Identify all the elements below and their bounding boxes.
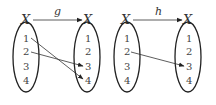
function-diagrams: X X g 1 2 3 4 1 2 3 4 X X h 1 2 3 4 1 2 … xyxy=(0,0,216,105)
domain-element-1: 1 xyxy=(23,33,29,44)
codomain-element-1: 1 xyxy=(85,33,91,44)
function-label-g: g xyxy=(54,5,61,18)
codomain-element-1: 1 xyxy=(186,33,192,44)
domain-element-3: 3 xyxy=(124,61,130,72)
domain-element-2: 2 xyxy=(23,46,29,57)
diagram-g: X X g 1 2 3 4 1 2 3 4 xyxy=(13,5,100,92)
codomain-element-3: 3 xyxy=(85,61,91,72)
function-label-h: h xyxy=(155,5,162,18)
diagram-h: X X h 1 2 3 4 1 2 3 4 xyxy=(114,5,201,92)
codomain-element-3: 3 xyxy=(186,61,192,72)
codomain-element-2: 2 xyxy=(85,46,91,57)
domain-element-2: 2 xyxy=(124,46,130,57)
codomain-element-4: 4 xyxy=(186,75,192,86)
domain-element-3: 3 xyxy=(23,61,29,72)
codomain-element-2: 2 xyxy=(186,46,192,57)
domain-element-1: 1 xyxy=(124,33,130,44)
domain-element-4: 4 xyxy=(23,75,29,86)
mapping-arrow-2-to-3 xyxy=(131,52,184,66)
domain-element-4: 4 xyxy=(124,75,130,86)
codomain-element-4: 4 xyxy=(85,75,91,86)
